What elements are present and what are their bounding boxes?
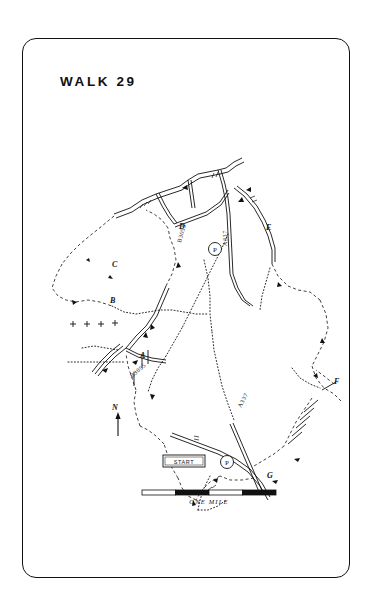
waypoint-label-g: G: [267, 471, 273, 480]
map-cross-path: [70, 320, 118, 327]
map-roads: [92, 158, 275, 500]
scale-bar-label: ONE MILE: [189, 498, 228, 505]
road-label-b3055-south: B3055: [129, 362, 147, 379]
waypoint-label-c: C: [112, 260, 118, 269]
start-label: START: [174, 459, 195, 465]
road-label-a337-north: A337: [222, 230, 228, 246]
map-waypoint-labels: A B C D E F G: [109, 222, 340, 480]
waypoint-label-b: B: [109, 296, 116, 305]
parking-symbol-north: P: [209, 243, 222, 256]
map-minor-marks: [140, 172, 257, 490]
map-illustration: A B C D E F G P P START A337 A337 B3055 …: [22, 38, 350, 578]
waypoint-label-f: F: [333, 377, 340, 386]
waypoint-label-e: E: [265, 223, 271, 232]
north-arrow: N: [111, 403, 120, 436]
parking-label: P: [225, 459, 229, 467]
north-arrow-label: N: [111, 403, 119, 412]
map-svg: A B C D E F G P P START A337 A337 B3055 …: [22, 38, 350, 578]
parking-symbol-south: P: [221, 456, 234, 469]
road-number-labels: A337 A337 B3055 B3055: [129, 223, 249, 408]
map-railway-hatching: [134, 350, 336, 444]
start-marker: START: [163, 455, 205, 467]
scale-bar: ONE MILE: [142, 490, 276, 505]
page-canvas: WALK 29: [0, 0, 369, 599]
road-label-a337-south: A337: [237, 392, 250, 409]
waypoint-label-a: A: [139, 351, 146, 360]
parking-label: P: [213, 246, 217, 254]
